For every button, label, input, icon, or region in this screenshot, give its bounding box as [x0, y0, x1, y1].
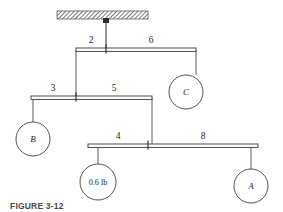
bar-1-left-dimension-label: 2: [89, 35, 94, 45]
hatched-ceiling-block: [57, 11, 148, 19]
weight-c-label: C: [183, 87, 190, 97]
bar-2-group: 3 5: [31, 83, 152, 102]
bar-1-right-dimension-label: 6: [149, 35, 154, 45]
bar-3-group: 4 8: [88, 131, 258, 150]
bar-1-beam: [76, 48, 196, 51]
weight-b-label: B: [30, 134, 36, 144]
statics-lever-figure: 2 6 3 5 4 8 C B 0.6 lb: [0, 0, 283, 212]
bar-1-group: 2 6: [76, 35, 196, 54]
bar-3-beam: [88, 144, 258, 147]
bar-3-right-dimension-label: 8: [201, 131, 206, 141]
weight-c-group: C: [169, 75, 203, 109]
bar-2-left-dimension-label: 3: [51, 83, 56, 93]
figure-caption: FIGURE 3-12: [10, 201, 64, 211]
ceiling-support-group: [57, 11, 148, 23]
weight-load-label: 0.6 lb: [89, 178, 108, 187]
bar-3-left-dimension-label: 4: [116, 131, 121, 141]
weight-a-group: A: [234, 169, 268, 203]
weight-load-group: 0.6 lb: [80, 164, 116, 200]
weight-b-group: B: [16, 122, 50, 156]
figure-canvas: 2 6 3 5 4 8 C B 0.6 lb: [0, 0, 283, 212]
bar-2-beam: [31, 96, 152, 99]
bar-2-right-dimension-label: 5: [112, 83, 117, 93]
weight-a-label: A: [247, 181, 254, 191]
